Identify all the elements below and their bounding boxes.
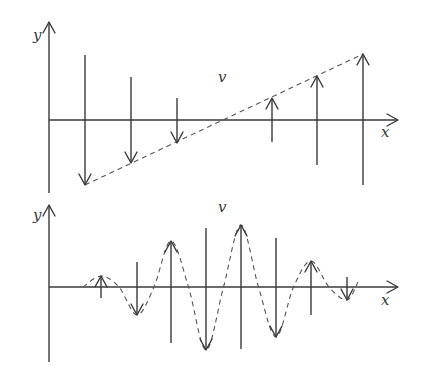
vector-field-figure [0,0,427,375]
panel1-velocity-label: v [218,70,226,85]
panel1-x-axis-label: x [381,125,389,140]
panel2-x-axis-label: x [381,293,389,308]
panel1-y-axis-label: y [33,28,41,43]
diagram-stage: y x v y x v [0,0,427,375]
panel2-velocity-label: v [218,200,226,215]
panel2-y-axis-label: y [33,208,41,223]
